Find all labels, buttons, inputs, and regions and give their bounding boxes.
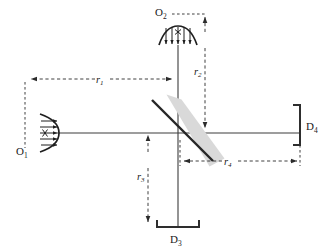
detector-d3-label: D3 [170, 233, 182, 248]
diagram-canvas: O1 O2 D4 [0, 0, 334, 249]
optical-diagram-figure: O1 O2 D4 [0, 0, 334, 249]
source-o2-label: O2 [155, 6, 167, 21]
source-o2[interactable]: O2 [155, 6, 197, 45]
dimension-r2-label: r2 [194, 66, 202, 79]
dimension-r1-label: r1 [96, 74, 104, 87]
source-o1[interactable]: O1 [16, 114, 59, 160]
detector-d4-label: D4 [306, 120, 318, 135]
detector-d4[interactable]: D4 [293, 105, 318, 145]
beam-splitter[interactable] [152, 95, 225, 167]
dimension-r1: r1 [25, 74, 172, 148]
beam-splitter-coating-band [167, 95, 225, 167]
dimension-r3-label: r3 [137, 171, 145, 184]
dimension-r3: r3 [137, 135, 148, 222]
source-o1-rays [40, 121, 57, 145]
source-o1-label: O1 [16, 145, 28, 160]
detector-d4-bracket [293, 105, 300, 145]
dimension-r4-label: r4 [224, 156, 232, 169]
